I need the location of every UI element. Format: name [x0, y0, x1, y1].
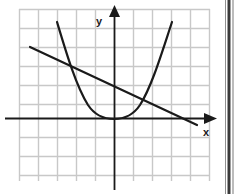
y-axis	[109, 5, 120, 190]
coordinate-plane: y x	[0, 0, 235, 194]
x-axis-label: x	[203, 126, 210, 138]
y-axis-label: y	[96, 15, 103, 27]
y-axis-arrow-icon	[109, 5, 120, 17]
x-axis-arrow-icon	[204, 113, 217, 124]
right-border-edge	[226, 0, 234, 194]
graph-figure: y x	[0, 0, 235, 194]
